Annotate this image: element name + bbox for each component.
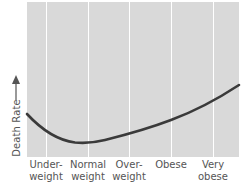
- x-label-line1: Very: [188, 159, 238, 171]
- x-label-very-obese: Very obese: [188, 159, 238, 183]
- y-axis-label: Death Rate: [11, 99, 22, 156]
- death-rate-chart: Death Rate Under- weight Normal weight O…: [0, 0, 249, 193]
- x-label-line2: weight: [104, 171, 154, 183]
- y-axis-arrow-icon: [12, 75, 20, 100]
- x-label-line2: obese: [188, 171, 238, 183]
- curve-line: [27, 85, 239, 143]
